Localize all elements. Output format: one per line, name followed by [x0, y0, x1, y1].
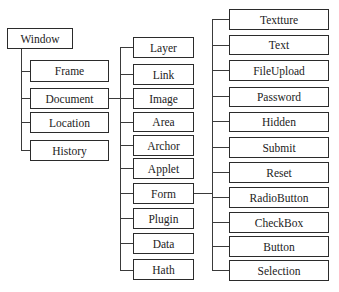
node-password: Password [229, 87, 329, 107]
connector-form-selection [212, 270, 229, 271]
node-image: Image [133, 88, 194, 109]
node-plugin: Plugin [133, 208, 194, 229]
connector-window-history [21, 150, 30, 151]
node-fileupload: FileUpload [229, 60, 329, 81]
connector-form-password [212, 96, 229, 97]
connector-form-fileupload [212, 70, 229, 71]
node-text: Text [229, 35, 329, 55]
connector-doc-plugin [120, 218, 133, 219]
connector-doc-form [120, 193, 133, 194]
connector-doc-link [120, 74, 133, 75]
connector-form-trunk [212, 19, 213, 271]
node-document: Document [30, 88, 109, 109]
connector-window-frame [21, 71, 30, 72]
connector-doc-hath [120, 270, 133, 271]
connector-doc-layer [120, 47, 133, 48]
connector-doc-data [120, 243, 133, 244]
node-form: Form [133, 183, 194, 204]
connector-window-location [21, 122, 30, 123]
node-submit: Submit [229, 137, 329, 158]
node-window: Window [7, 28, 73, 49]
node-data: Data [133, 233, 194, 254]
node-frame: Frame [30, 60, 109, 82]
node-archor: Archor [133, 135, 194, 156]
node-location: Location [30, 112, 109, 133]
connector-form-textture [212, 19, 229, 20]
connector-doc-archor [120, 145, 133, 146]
node-checkbox: CheckBox [229, 212, 329, 233]
connector-document-out [109, 98, 120, 99]
node-button: Button [229, 236, 329, 257]
connector-doc-image [120, 98, 133, 99]
connector-doc-area [120, 122, 133, 123]
node-selection: Selection [229, 260, 329, 281]
connector-form-hidden [212, 121, 229, 122]
node-radiobutton: RadioButton [229, 187, 329, 208]
node-textture: Textture [229, 9, 329, 30]
connector-form-out [194, 193, 212, 194]
connector-form-submit [212, 147, 229, 148]
node-hath: Hath [133, 259, 194, 280]
connector-form-button [212, 246, 229, 247]
connector-window-document [21, 98, 30, 99]
node-hidden: Hidden [229, 112, 329, 132]
connector-window-trunk [21, 49, 22, 151]
connector-form-radiobutton [212, 197, 229, 198]
node-layer: Layer [133, 37, 194, 58]
node-area: Area [133, 112, 194, 132]
connector-document-trunk [120, 47, 121, 271]
connector-form-text [212, 45, 229, 46]
connector-form-checkbox [212, 222, 229, 223]
connector-doc-applet [120, 168, 133, 169]
connector-form-reset [212, 172, 229, 173]
node-link: Link [133, 64, 194, 85]
node-reset: Reset [229, 162, 329, 183]
node-applet: Applet [133, 158, 194, 179]
node-history: History [30, 140, 109, 161]
